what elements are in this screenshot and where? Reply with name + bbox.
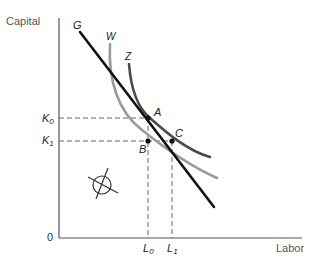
label-g: G xyxy=(73,19,82,31)
label-w: W xyxy=(106,31,117,42)
tick-l1: L1 xyxy=(167,242,178,256)
origin-label: 0 xyxy=(47,231,53,243)
y-axis-label: Capital xyxy=(6,15,40,27)
isoquant-diagram: Capital Labor 0 G W Z A B C K0 K1 L0 L1 xyxy=(0,0,319,265)
curve-w xyxy=(110,44,217,178)
tick-l0: L0 xyxy=(143,242,154,256)
label-c: C xyxy=(175,127,183,139)
tick-k0: K0 xyxy=(42,112,54,126)
point-c xyxy=(169,138,174,143)
point-a xyxy=(145,115,150,120)
label-b: B xyxy=(139,143,146,155)
empty-set-icon xyxy=(88,168,118,199)
label-z: Z xyxy=(124,51,132,62)
x-axis-label: Labor xyxy=(276,242,304,254)
tick-k1: K1 xyxy=(42,134,54,148)
label-a: A xyxy=(153,106,161,118)
